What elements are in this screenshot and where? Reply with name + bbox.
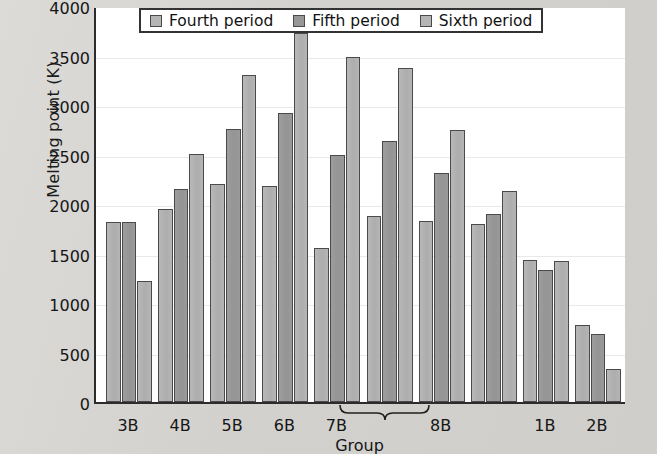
bar [606, 369, 621, 402]
x-axis-title: Group [94, 436, 625, 454]
bar-cluster [367, 8, 414, 402]
bar [538, 270, 553, 402]
bar [486, 214, 501, 402]
plot-area [94, 8, 625, 404]
bar-cluster [575, 8, 622, 402]
bar [294, 33, 309, 402]
bar [382, 141, 397, 402]
bar-cluster [471, 8, 518, 402]
chart-figure: Melting point (K) 0500100015002000250030… [0, 0, 657, 454]
bar [262, 186, 277, 402]
x-tick-label: 8B [430, 416, 451, 435]
bar [210, 184, 225, 402]
legend-entry: Fourth period [150, 12, 273, 30]
x-tick-label: 7B [326, 416, 347, 435]
y-tick-label: 4000 [26, 0, 90, 18]
bar [158, 209, 173, 402]
y-tick-label: 500 [26, 345, 90, 364]
bar [226, 129, 241, 402]
legend-entry: Sixth period [420, 12, 533, 30]
legend-label: Fifth period [312, 12, 399, 30]
bar-cluster [262, 8, 309, 402]
bar [106, 222, 121, 402]
bar [434, 173, 449, 402]
bar [367, 216, 382, 402]
bar [314, 248, 329, 402]
x-tick-label: 5B [222, 416, 243, 435]
y-tick-label: 3500 [26, 48, 90, 67]
bar [330, 155, 345, 403]
bar [471, 224, 486, 402]
bar [575, 325, 590, 402]
bar [278, 113, 293, 402]
x-tick-label: 1B [534, 416, 555, 435]
x-tick-label: 6B [274, 416, 295, 435]
bar-cluster [210, 8, 257, 402]
bar-cluster [523, 8, 570, 402]
x-tick-label: 2B [586, 416, 607, 435]
bar [502, 191, 517, 402]
y-tick-label: 1500 [26, 246, 90, 265]
legend-swatch-icon [293, 15, 305, 27]
chart-legend: Fourth periodFifth periodSixth period [139, 8, 543, 33]
legend-entry: Fifth period [293, 12, 399, 30]
y-tick-label: 1000 [26, 296, 90, 315]
x-tick-label: 3B [117, 416, 138, 435]
bar [122, 222, 137, 402]
bar [242, 75, 257, 402]
bar [523, 260, 538, 402]
bar [591, 334, 606, 402]
legend-swatch-icon [150, 15, 162, 27]
bar [174, 189, 189, 402]
bar-cluster [314, 8, 361, 402]
legend-label: Sixth period [439, 12, 533, 30]
bar-cluster [419, 8, 466, 402]
y-tick-label: 2500 [26, 147, 90, 166]
legend-swatch-icon [420, 15, 432, 27]
bar [419, 221, 434, 402]
y-tick-label: 0 [26, 395, 90, 414]
bar [398, 68, 413, 402]
bar-cluster [158, 8, 205, 402]
bar [450, 130, 465, 402]
bar-groups [96, 8, 625, 402]
legend-label: Fourth period [169, 12, 273, 30]
bar [137, 281, 152, 402]
y-axis-tick-labels: 05001000150020002500300035004000 [26, 0, 90, 404]
y-tick-label: 3000 [26, 98, 90, 117]
y-tick-label: 2000 [26, 197, 90, 216]
bar-cluster [106, 8, 153, 402]
bar [189, 154, 204, 402]
bar [554, 261, 569, 402]
x-tick-label: 4B [170, 416, 191, 435]
bar [346, 57, 361, 403]
